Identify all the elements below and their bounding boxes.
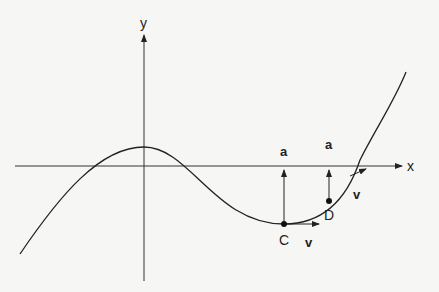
point-c [281, 221, 287, 227]
motion-diagram: x y C v a D v a [0, 0, 439, 292]
point-c-label: C [279, 232, 289, 248]
acceleration-label-d: a [325, 137, 333, 152]
velocity-label-c: v [305, 235, 313, 250]
acceleration-label-c: a [280, 144, 288, 159]
point-d-label: D [324, 207, 334, 223]
x-axis-label: x [407, 158, 414, 174]
point-d [326, 198, 332, 204]
y-axis-label: y [140, 15, 147, 31]
velocity-label-d: v [353, 187, 361, 202]
velocity-arrow-d [350, 169, 366, 176]
position-curve [20, 72, 406, 254]
